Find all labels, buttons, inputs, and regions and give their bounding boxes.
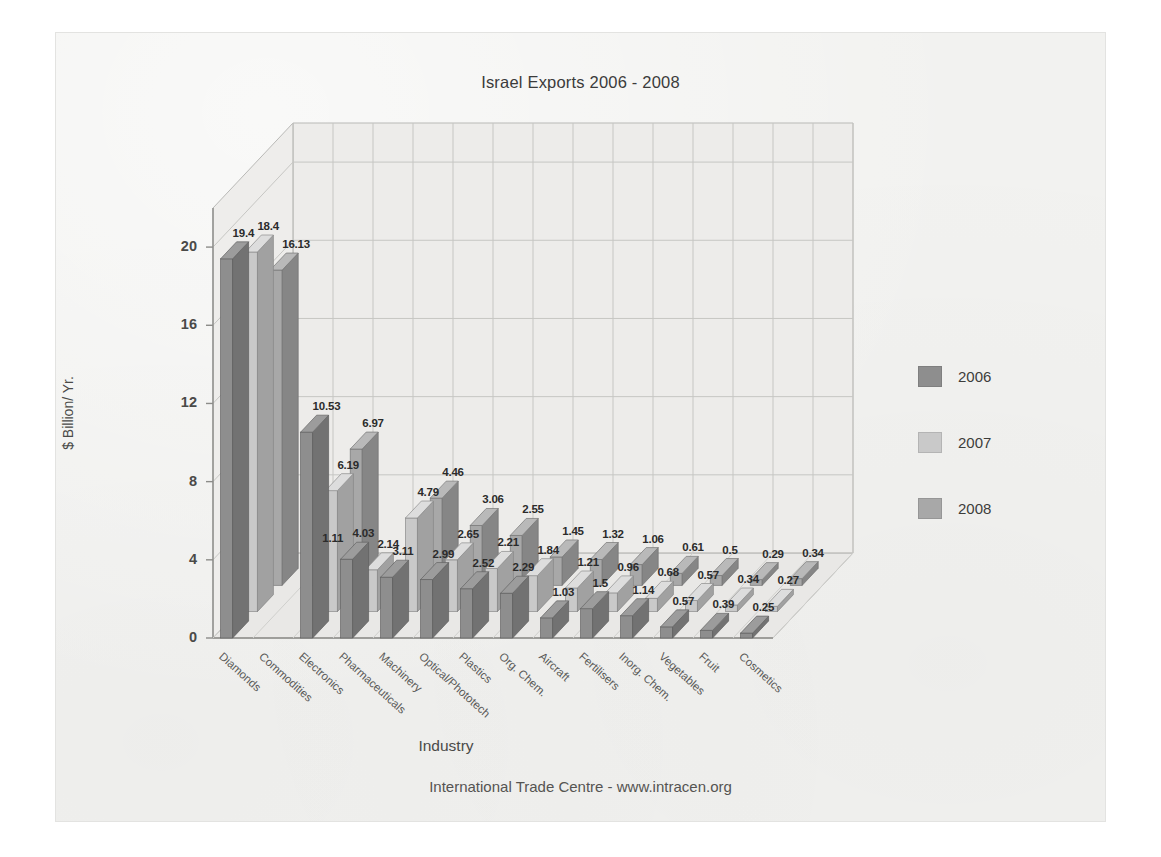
y-tick-label: 12 xyxy=(163,394,197,410)
bar-value-label: 2.65 xyxy=(457,528,479,540)
bar-value-label: 2.55 xyxy=(522,503,544,515)
y-tick-label: 16 xyxy=(163,316,197,332)
bar-value-label: 1.21 xyxy=(577,556,599,568)
bar-value-label: 16.13 xyxy=(282,238,310,250)
bar-value-label: 0.96 xyxy=(617,561,639,573)
legend-label: 2006 xyxy=(958,368,991,385)
bar-value-label: 0.68 xyxy=(657,566,679,578)
bar-value-label: 0.57 xyxy=(673,595,695,607)
y-tick-label: 8 xyxy=(163,473,197,489)
legend-swatch-2006 xyxy=(918,366,942,387)
bar-value-label: 1.14 xyxy=(633,584,655,596)
bar-value-label: 4.79 xyxy=(417,486,439,498)
bar-value-label: 1.06 xyxy=(642,533,664,545)
plot-svg xyxy=(141,83,861,683)
bar-value-label: 0.34 xyxy=(737,573,759,585)
bar-value-label: 1.5 xyxy=(593,577,608,589)
bar-value-label: 2.21 xyxy=(497,536,519,548)
legend-item[interactable]: 2007 xyxy=(918,409,1078,475)
chart-footer: International Trade Centre - www.intrace… xyxy=(56,778,1105,795)
bar-value-label: 3.11 xyxy=(393,545,414,557)
legend-item[interactable]: 2008 xyxy=(918,475,1078,541)
legend-swatch-2008 xyxy=(918,498,942,519)
bar-value-label: 3.06 xyxy=(482,493,504,505)
plot-area: 048121620 DiamondsCommoditiesElectronics… xyxy=(141,83,861,683)
bar-value-label: 1.11 xyxy=(322,532,343,544)
legend-label: 2007 xyxy=(958,434,991,451)
legend-swatch-2007 xyxy=(918,432,942,453)
bar-value-label: 0.29 xyxy=(762,548,784,560)
legend-item[interactable]: 2006 xyxy=(918,343,1078,409)
chart-legend: 2006 2007 2008 xyxy=(918,343,1078,541)
bar-value-label: 0.27 xyxy=(777,574,799,586)
bar-value-label: 0.61 xyxy=(682,541,704,553)
bar-value-label: 10.53 xyxy=(313,400,341,412)
bar-value-label: 2.99 xyxy=(433,548,455,560)
bar-value-label: 1.32 xyxy=(602,528,624,540)
bar-value-label: 6.97 xyxy=(362,417,384,429)
y-tick-label: 4 xyxy=(163,551,197,567)
bar-value-label: 19.4 xyxy=(233,227,255,239)
bar-value-label: 2.52 xyxy=(473,557,495,569)
bar-value-label: 4.46 xyxy=(442,466,464,478)
y-tick-label: 0 xyxy=(163,629,197,645)
bar-value-label: 0.39 xyxy=(713,598,735,610)
bar-value-label: 6.19 xyxy=(337,459,359,471)
bar-value-label: 4.03 xyxy=(353,527,375,539)
chart-canvas: Israel Exports 2006 - 2008 $ Billion/ Yr… xyxy=(55,32,1106,822)
x-axis-title: Industry xyxy=(56,737,836,755)
bar-value-label: 0.25 xyxy=(753,601,775,613)
legend-label: 2008 xyxy=(958,500,991,517)
y-tick-label: 20 xyxy=(163,238,197,254)
bar-value-label: 0.57 xyxy=(697,569,719,581)
bar-value-label: 1.84 xyxy=(537,544,559,556)
bar-value-label: 0.34 xyxy=(802,547,824,559)
bar-value-label: 0.5 xyxy=(722,544,737,556)
bar-value-label: 1.03 xyxy=(553,586,575,598)
bar-value-label: 18.4 xyxy=(257,220,279,232)
bar-value-label: 1.45 xyxy=(562,525,584,537)
bar-value-label: 2.29 xyxy=(513,561,535,573)
